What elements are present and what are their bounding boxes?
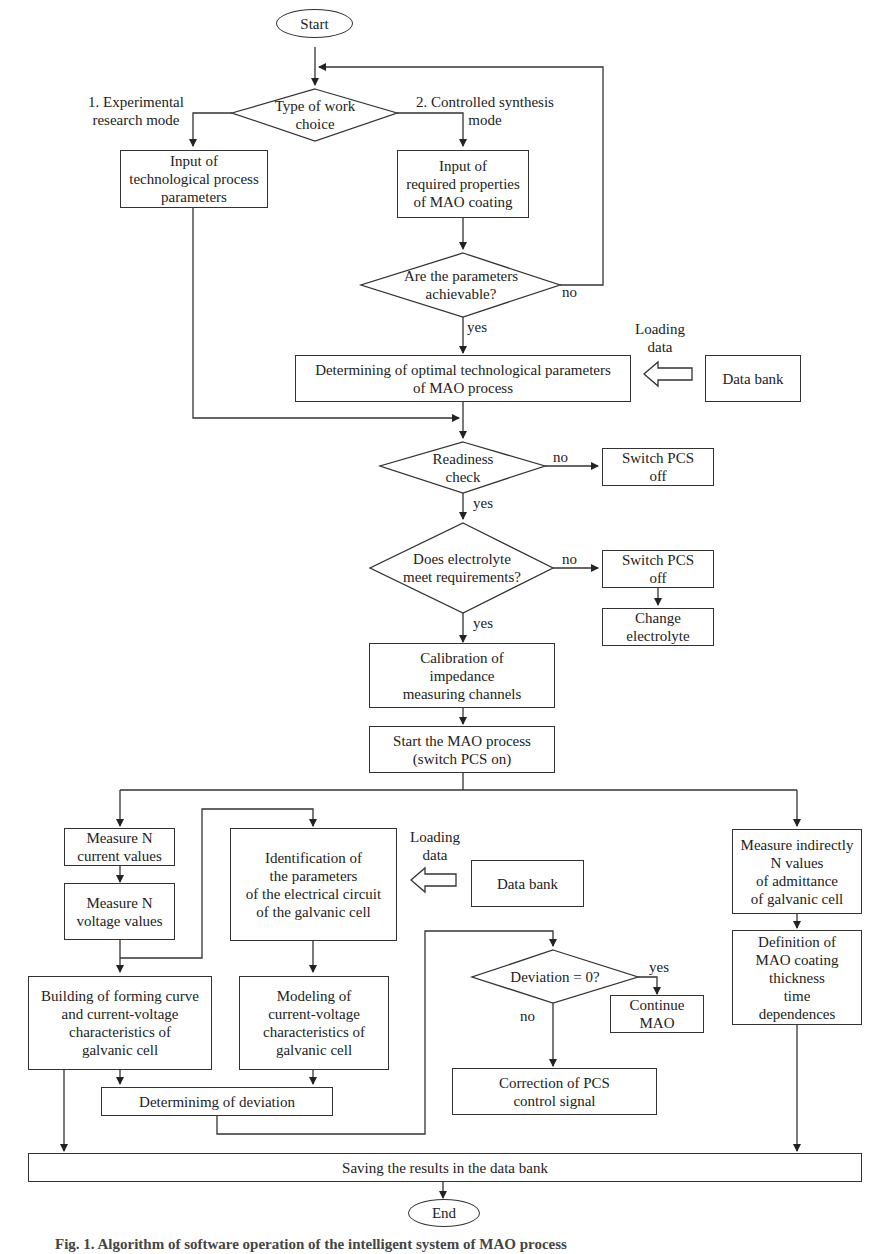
switch-pcs-off-box-1: Switch PCS off xyxy=(602,448,714,486)
label-experimental-mode: 1. Experimental research mode xyxy=(76,93,196,129)
measure-admittance-box: Measure indirectly N values of admittanc… xyxy=(732,829,862,914)
building-forming-curve-box: Building of forming curve and current-vo… xyxy=(28,976,212,1070)
definition-thickness-box: Definition of MAO coating thickness time… xyxy=(732,930,862,1025)
decision-work-choice: Type of work choice xyxy=(232,89,398,141)
label-no-deviation: no xyxy=(520,1007,535,1025)
continue-mao-box: Continue MAO xyxy=(610,995,704,1033)
decision-readiness-check: Readiness check xyxy=(380,442,546,493)
figure-caption: Fig. 1. Algorithm of software operation … xyxy=(55,1236,567,1253)
measure-voltage-box: Measure N voltage values xyxy=(64,883,175,940)
data-bank-box-2: Data bank xyxy=(471,860,584,907)
label-yes-achievable: yes xyxy=(467,318,487,336)
input-technological-parameters-box: Input of technological process parameter… xyxy=(120,150,268,208)
identification-box: Identification of the parameters of the … xyxy=(230,828,397,941)
calibration-box: Calibration of impedance measuring chann… xyxy=(369,643,555,708)
label-loading-data-1: Loading data xyxy=(630,320,690,356)
label-controlled-synthesis-mode: 2. Controlled synthesis mode xyxy=(405,93,565,129)
determining-deviation-box: Determinimg of deviation xyxy=(101,1087,333,1116)
end-terminal: End xyxy=(408,1199,480,1227)
start-mao-process-box: Start the MAO process (switch PCS on) xyxy=(369,726,555,773)
label-loading-data-2: Loading data xyxy=(405,828,465,864)
input-required-properties-box: Input of required properties of MAO coat… xyxy=(397,150,529,218)
correction-pcs-signal-box: Correction of PCS control signal xyxy=(452,1068,657,1115)
measure-current-box: Measure N current values xyxy=(64,828,175,866)
decision-electrolyte-requirements: Does electrolyte meet requirements? xyxy=(370,523,554,613)
modeling-characteristics-box: Modeling of current-voltage characterist… xyxy=(239,976,389,1070)
label-no-achievable: no xyxy=(562,283,577,301)
determine-optimal-parameters-box: Determining of optimal technological par… xyxy=(295,355,631,402)
start-terminal: Start xyxy=(276,9,353,38)
label-yes-electrolyte: yes xyxy=(473,614,493,632)
decision-parameters-achievable: Are the parameters achievable? xyxy=(361,253,561,317)
label-yes-deviation: yes xyxy=(649,958,669,976)
label-no-electrolyte: no xyxy=(562,550,577,568)
change-electrolyte-box: Change electrolyte xyxy=(602,608,714,646)
label-no-readiness: no xyxy=(553,448,568,466)
switch-pcs-off-box-2: Switch PCS off xyxy=(602,550,714,588)
data-bank-box-1: Data bank xyxy=(705,355,801,402)
saving-results-box: Saving the results in the data bank xyxy=(28,1153,862,1182)
label-yes-readiness: yes xyxy=(473,494,493,512)
